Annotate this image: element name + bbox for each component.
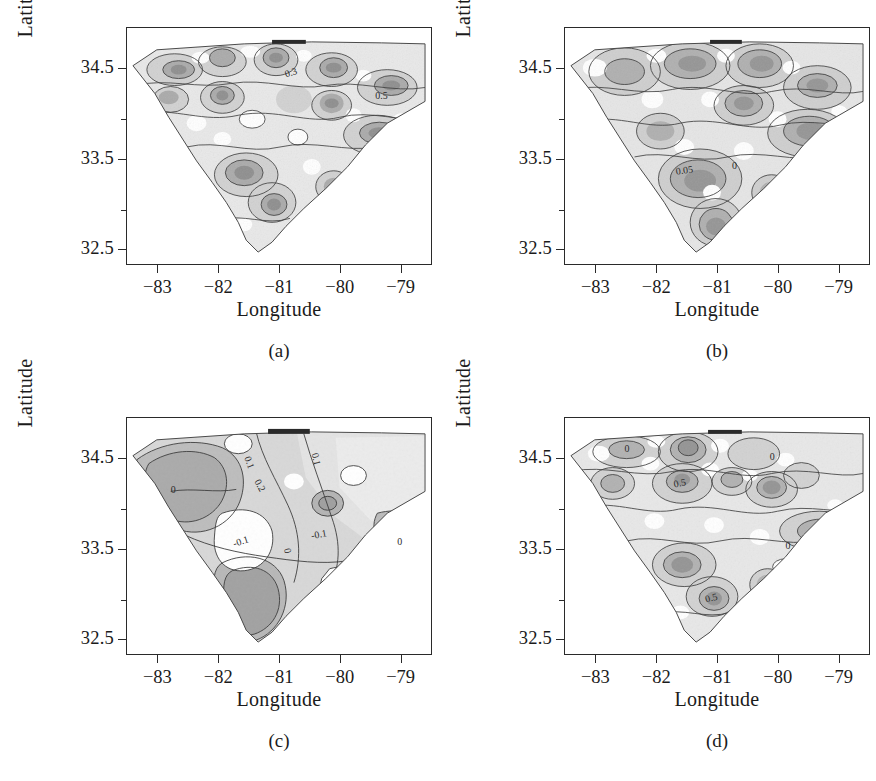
y-tick-major-c-2 — [118, 639, 127, 640]
x-tick-label-b-3: −80 — [763, 277, 792, 298]
contour-label-b-1: 0 — [732, 160, 737, 171]
y-tick-label-b-1: 33.5 — [519, 148, 552, 169]
y-tick-label-c-0: 34.5 — [81, 447, 114, 468]
y-tick-major-d-2 — [556, 639, 565, 640]
contour-label-d-2: 0 — [770, 451, 775, 462]
y-tick-label-c-2: 32.5 — [81, 628, 114, 649]
x-tick-label-a-2: −81 — [265, 277, 294, 298]
x-tick-label-c-1: −82 — [204, 667, 233, 688]
y-tick-major-a-2 — [118, 249, 127, 250]
y-tick-label-c-1: 33.5 — [81, 538, 114, 559]
x-tick-label-b-1: −82 — [642, 277, 671, 298]
contour-label-c-2: 0 — [171, 484, 176, 495]
y-tick-major-d-0 — [556, 458, 565, 459]
x-tick-c-2 — [279, 654, 280, 663]
x-tick-label-d-1: −82 — [642, 667, 671, 688]
x-axis-label-c: Longitude — [126, 688, 432, 711]
y-axis-label-c: Latitude — [14, 318, 37, 468]
contour-label-c-7: 0 — [397, 536, 402, 547]
y-axis-label-a: Latitude — [14, 0, 37, 78]
x-tick-d-0 — [595, 654, 596, 663]
x-tick-label-a-1: −82 — [204, 277, 233, 298]
x-tick-a-4 — [401, 264, 402, 273]
panel-c: Latitude — [0, 390, 438, 780]
x-tick-label-d-3: −80 — [763, 667, 792, 688]
x-tick-label-c-4: −79 — [386, 667, 415, 688]
x-tick-label-d-0: −83 — [581, 667, 610, 688]
y-tick-minor-a-1 — [121, 210, 127, 211]
y-tick-minor-a-0 — [121, 119, 127, 120]
contour-label-d-4: 0 — [786, 540, 791, 551]
contour-map-c: 0.1 0.1 0 0.2 -0.1 -0.1 0 0 — [127, 418, 431, 654]
x-tick-b-4 — [839, 264, 840, 273]
y-axis-label-b: Latitude — [452, 0, 475, 78]
y-axis-label-d: Latitude — [452, 318, 475, 468]
y-tick-label-a-1: 33.5 — [81, 148, 114, 169]
panel-caption-c: (c) — [126, 730, 432, 752]
contour-map-b: 0.05 0 — [565, 28, 869, 264]
y-tick-major-c-1 — [118, 549, 127, 550]
plot-frame-d: 0.5 0 0 0.5 0 34.5 33.5 32.5 −83 −82 −81… — [564, 417, 870, 655]
x-tick-d-2 — [717, 654, 718, 663]
x-tick-c-4 — [401, 654, 402, 663]
x-tick-label-c-2: −81 — [265, 667, 294, 688]
y-tick-major-a-0 — [118, 68, 127, 69]
x-tick-d-3 — [778, 654, 779, 663]
x-tick-a-2 — [279, 264, 280, 273]
x-tick-label-c-0: −83 — [143, 667, 172, 688]
y-tick-label-b-2: 32.5 — [519, 238, 552, 259]
contour-label-d-0: 0.5 — [673, 476, 687, 489]
y-tick-minor-b-0 — [559, 119, 565, 120]
figure-four-panel-contour-maps: Latitude — [0, 0, 876, 781]
x-tick-label-d-4: −79 — [824, 667, 853, 688]
contour-map-a: 0.3 0.5 — [127, 28, 431, 264]
y-tick-label-d-2: 32.5 — [519, 628, 552, 649]
contour-label-d-1: 0 — [625, 443, 630, 454]
contour-label-a-1: 0.5 — [375, 90, 387, 101]
y-tick-major-d-1 — [556, 549, 565, 550]
contour-map-d: 0.5 0 0 0.5 0 — [565, 418, 869, 654]
x-tick-d-4 — [839, 654, 840, 663]
y-tick-label-a-0: 34.5 — [81, 57, 114, 78]
x-tick-c-0 — [157, 654, 158, 663]
y-tick-major-c-0 — [118, 458, 127, 459]
x-tick-d-1 — [656, 654, 657, 663]
y-tick-label-d-0: 34.5 — [519, 447, 552, 468]
x-tick-a-3 — [340, 264, 341, 273]
x-tick-label-a-4: −79 — [386, 277, 415, 298]
x-tick-label-b-0: −83 — [581, 277, 610, 298]
y-tick-major-a-1 — [118, 159, 127, 160]
y-tick-minor-c-1 — [121, 600, 127, 601]
x-tick-label-c-3: −80 — [325, 667, 354, 688]
x-tick-b-2 — [717, 264, 718, 273]
x-axis-label-d: Longitude — [564, 688, 870, 711]
y-tick-major-b-0 — [556, 68, 565, 69]
y-tick-minor-d-0 — [559, 509, 565, 510]
panel-d: Latitude — [438, 390, 876, 780]
x-tick-c-3 — [340, 654, 341, 663]
panel-caption-d: (d) — [564, 730, 870, 752]
x-axis-label-b: Longitude — [564, 298, 870, 321]
x-tick-label-a-0: −83 — [143, 277, 172, 298]
panel-caption-b: (b) — [564, 340, 870, 362]
x-tick-label-b-4: −79 — [824, 277, 853, 298]
plot-frame-a: 0.3 0.5 34.5 33.5 32.5 −83 −82 −81 −80 −… — [126, 27, 432, 265]
x-tick-c-1 — [218, 654, 219, 663]
x-tick-a-0 — [157, 264, 158, 273]
panel-caption-a: (a) — [126, 340, 432, 362]
plot-frame-b: 0.05 0 34.5 33.5 32.5 −83 −82 −81 −80 −7… — [564, 27, 870, 265]
y-tick-major-b-1 — [556, 159, 565, 160]
y-tick-label-d-1: 33.5 — [519, 538, 552, 559]
y-tick-label-a-2: 32.5 — [81, 238, 114, 259]
y-tick-minor-c-0 — [121, 509, 127, 510]
y-tick-major-b-2 — [556, 249, 565, 250]
panel-a: Latitude — [0, 0, 438, 390]
y-tick-label-b-0: 34.5 — [519, 57, 552, 78]
panel-b: Latitude — [438, 0, 876, 390]
y-tick-minor-b-1 — [559, 210, 565, 211]
x-tick-label-b-2: −81 — [703, 277, 732, 298]
y-tick-minor-d-1 — [559, 600, 565, 601]
x-tick-label-d-2: −81 — [703, 667, 732, 688]
x-tick-b-1 — [656, 264, 657, 273]
x-axis-label-a: Longitude — [126, 298, 432, 321]
